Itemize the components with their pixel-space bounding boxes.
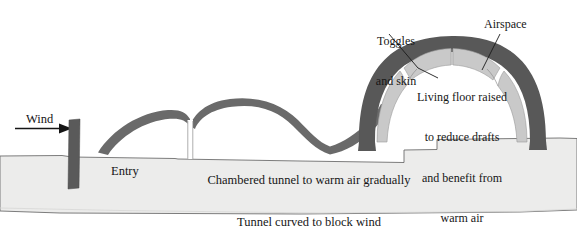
chamber-divider-line xyxy=(188,120,194,159)
entry-label: Entry xyxy=(111,164,139,178)
tunnel-annotation-line-1: Chambered tunnel to warm air gradually xyxy=(204,173,414,187)
windbreak-post xyxy=(68,119,80,189)
diagram-canvas: Wind Entry Chambered tunnel to warm air … xyxy=(0,0,577,237)
airspace-label: Airspace xyxy=(484,18,527,31)
living-floor-annotation: Living floor raised to reduce drafts and… xyxy=(407,64,517,237)
living-floor-line-4: warm air xyxy=(407,212,517,225)
wind-label: Wind xyxy=(26,112,53,126)
tunnel-annotation-line-2: Tunnel curved to block wind xyxy=(204,215,414,229)
living-floor-line-3: and benefit from xyxy=(407,172,517,185)
tunnel-annotation: Chambered tunnel to warm air gradually T… xyxy=(204,145,414,237)
living-floor-line-1: Living floor raised xyxy=(407,91,517,104)
living-floor-line-2: to reduce drafts xyxy=(407,131,517,144)
dome-leg-right xyxy=(529,141,547,150)
toggles-label-line-1: Toggles xyxy=(364,35,428,48)
tunnel-arch-left xyxy=(98,110,190,155)
